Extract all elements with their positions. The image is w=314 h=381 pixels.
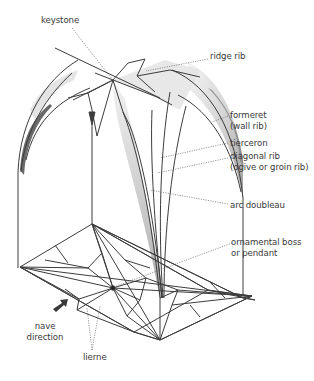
leader-arc-doubleau bbox=[150, 190, 228, 204]
label-lierne: lierne bbox=[83, 352, 107, 363]
label-ridge-rib: ridge rib bbox=[210, 51, 245, 62]
label-tierceron: tierceron bbox=[230, 138, 268, 149]
leader-tierceron bbox=[160, 143, 228, 158]
label-keystone: keystone bbox=[41, 15, 79, 26]
label-nave: nave bbox=[30, 321, 60, 332]
nave-direction-arrow-icon bbox=[53, 299, 68, 312]
label-arc-doubleau: arc doubleau bbox=[230, 200, 285, 211]
leader-diagonal-rib bbox=[157, 158, 228, 173]
label-formeret-sub: (wall rib) bbox=[230, 121, 267, 132]
label-ornamental-boss-sub: or pendant bbox=[231, 248, 277, 259]
leader-boss bbox=[114, 243, 232, 287]
label-diagonal-rib-sub: (ogive or groin rib) bbox=[230, 162, 308, 173]
leader-keystone bbox=[72, 28, 112, 79]
label-formeret: formeret bbox=[230, 110, 267, 121]
label-diagonal-rib: diagonal rib bbox=[230, 151, 280, 162]
label-ornamental-boss: ornamental boss bbox=[231, 237, 301, 248]
label-nave-direction: direction bbox=[21, 332, 69, 343]
leader-lierne-b bbox=[92, 306, 100, 350]
central-boss bbox=[111, 286, 115, 290]
